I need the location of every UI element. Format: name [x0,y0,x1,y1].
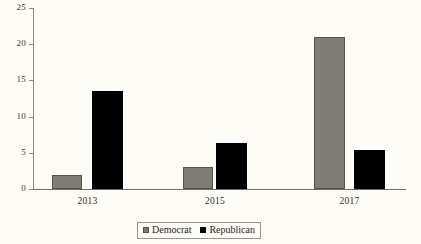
bar-2015-democrat [183,167,213,189]
legend-item-republican: Republican [200,224,255,236]
bar-2013-republican [92,91,123,189]
x-tick-label-2013: 2013 [58,196,118,206]
x-tick-label-2017: 2017 [320,196,380,206]
y-tick-mark [29,189,33,190]
legend-item-democrat: Democrat [143,224,191,236]
bars-layer [0,8,421,189]
chart-legend: Democrat Republican [137,222,261,239]
bar-2013-democrat [52,175,82,189]
bar-2017-republican [354,150,385,189]
black-square-swatch-icon [200,227,206,233]
legend-label-democrat: Democrat [152,224,191,236]
bar-2015-republican [216,143,247,189]
x-tick-label-2015: 2015 [185,196,245,206]
gray-square-swatch-icon [143,227,149,233]
bar-chart: 2520151050 201320152017 Democrat Republi… [0,0,421,244]
x-axis-line [29,189,406,190]
bar-2017-democrat [314,37,345,189]
legend-label-republican: Republican [209,224,255,236]
